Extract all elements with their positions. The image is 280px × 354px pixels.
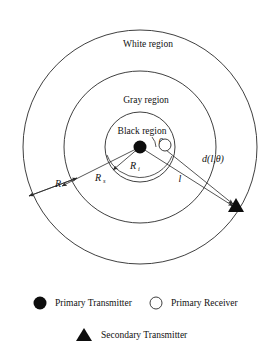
link-length-label: l	[179, 173, 182, 184]
legend-item-primary-receiver: Primary Receiver	[150, 297, 239, 309]
legend-item-secondary-transmitter: Secondary Transmitter	[76, 328, 188, 341]
hollow-circle-icon	[150, 297, 162, 309]
filled-triangle-icon	[76, 328, 92, 341]
theta-arc	[152, 137, 156, 147]
legend-label-primary-receiver: Primary Receiver	[171, 298, 239, 308]
svg-text:s: s	[103, 177, 106, 184]
legend-label-secondary-transmitter: Secondary Transmitter	[101, 330, 188, 340]
secondary-radius-label: R s	[94, 172, 106, 184]
outer-radius-measure	[29, 178, 77, 196]
legend-label-primary-transmitter: Primary Transmitter	[55, 298, 133, 308]
legend-item-primary-transmitter: Primary Transmitter	[34, 297, 133, 310]
svg-text:i: i	[138, 165, 140, 172]
primary-receiver-marker	[159, 139, 171, 151]
gray-region-label: Gray region	[123, 95, 169, 105]
white-region-label: White region	[123, 39, 173, 49]
interference-radius-label: R i	[129, 160, 140, 172]
svg-text:R: R	[94, 172, 101, 183]
outer-radius-label: R	[54, 178, 61, 189]
annular-region-diagram: White region Gray region Black region R …	[0, 0, 280, 354]
distance-function-label: d(l,θ)	[202, 153, 225, 165]
figure-canvas: White region Gray region Black region R …	[0, 0, 280, 354]
black-region-label: Black region	[118, 126, 167, 136]
primary-transmitter-marker	[134, 141, 147, 154]
filled-circle-icon	[34, 297, 47, 310]
legend: Primary Transmitter Primary Receiver Sec…	[34, 297, 239, 342]
svg-text:R: R	[129, 160, 136, 171]
